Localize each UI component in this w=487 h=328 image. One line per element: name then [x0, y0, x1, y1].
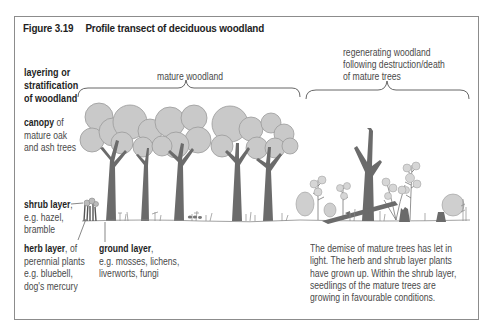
shrub-icon	[84, 198, 99, 221]
fungi-icon	[188, 216, 202, 219]
regenerating-brace	[306, 81, 469, 99]
canopy-icon	[80, 103, 298, 159]
mature-woodland-brace	[78, 80, 300, 97]
woodland-illustration	[0, 0, 487, 328]
ground-line	[82, 220, 470, 222]
tree-stump-icon	[399, 207, 446, 222]
